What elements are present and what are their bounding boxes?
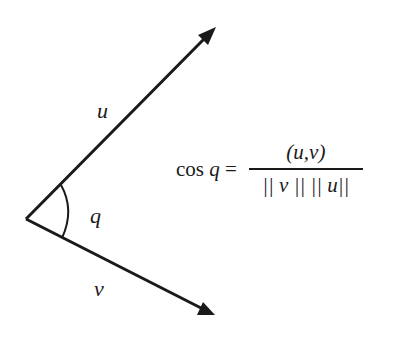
label-angle-q: q [90, 205, 101, 227]
vector-v [26, 219, 215, 315]
formula-denominator: || v || || u|| [262, 170, 349, 198]
label-v: v [94, 278, 104, 300]
formula-numerator: (u,v) [282, 140, 329, 168]
angle-arc [61, 185, 68, 238]
label-u: u [97, 100, 108, 122]
formula-fraction: (u,v) || v || || u|| [249, 140, 363, 198]
cosine-formula: cos q = (u,v) || v || || u|| [176, 140, 363, 198]
formula-lhs: cos q = [176, 157, 237, 182]
